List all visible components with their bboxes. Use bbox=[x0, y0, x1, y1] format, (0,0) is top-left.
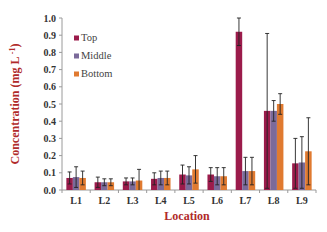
x-tick-label: L2 bbox=[98, 195, 110, 206]
x-tick-label: L5 bbox=[183, 195, 195, 206]
y-tick-label: 0.6 bbox=[44, 81, 57, 92]
bar bbox=[277, 104, 284, 190]
y-axis: 0.00.10.20.30.40.50.60.70.80.91.0 bbox=[44, 13, 63, 196]
y-tick-label: 0.9 bbox=[44, 30, 57, 41]
legend-label-top: Top bbox=[81, 32, 97, 43]
legend-label-middle: Middle bbox=[81, 50, 112, 61]
y-tick-label: 0.7 bbox=[44, 64, 57, 75]
x-tick-label: L8 bbox=[268, 195, 280, 206]
y-tick-label: 0.3 bbox=[44, 133, 57, 144]
legend: TopMiddleBottom bbox=[74, 32, 113, 79]
bar-series bbox=[66, 18, 311, 190]
x-tick-label: L4 bbox=[155, 195, 167, 206]
y-tick-label: 0.1 bbox=[44, 167, 57, 178]
y-tick-label: 1.0 bbox=[44, 13, 57, 24]
legend-label-bottom: Bottom bbox=[81, 68, 113, 79]
x-tick-label: L9 bbox=[296, 195, 308, 206]
y-axis-title: Concentration (mg L -1) bbox=[8, 44, 22, 165]
x-tick-label: L3 bbox=[127, 195, 139, 206]
series-top bbox=[66, 18, 298, 190]
bar bbox=[236, 32, 243, 190]
y-tick-label: 0.8 bbox=[44, 47, 57, 58]
x-tick-label: L6 bbox=[211, 195, 223, 206]
bar bbox=[270, 111, 277, 190]
bar-chart: 0.00.10.20.30.40.50.60.70.80.91.0 L1L2L3… bbox=[0, 0, 327, 232]
x-tick-label: L1 bbox=[70, 195, 82, 206]
legend-swatch-middle bbox=[74, 54, 79, 59]
x-axis: L1L2L3L4L5L6L7L8L9 bbox=[62, 190, 316, 206]
y-tick-label: 0.5 bbox=[44, 99, 57, 110]
y-tick-label: 0.4 bbox=[44, 116, 57, 127]
x-axis-title: Location bbox=[164, 209, 210, 223]
y-tick-label: 0.2 bbox=[44, 150, 57, 161]
legend-swatch-top bbox=[74, 36, 79, 41]
x-tick-label: L7 bbox=[240, 195, 252, 206]
legend-swatch-bottom bbox=[74, 72, 79, 77]
y-tick-label: 0.0 bbox=[44, 185, 57, 196]
